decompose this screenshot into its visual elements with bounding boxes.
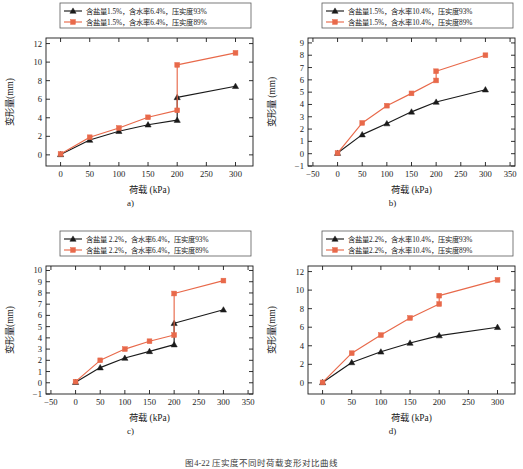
svg-text:0: 0 (320, 397, 324, 407)
chart-a-canvas: 050100150200250300024681012荷载 (kPa)变形量(m… (0, 0, 261, 215)
svg-text:荷载 (kPa): 荷载 (kPa) (391, 184, 432, 196)
svg-text:含盐量1.5%，含水率10.4%，压实度93%: 含盐量1.5%，含水率10.4%，压实度93% (348, 7, 472, 16)
chart-panel-b: −50050100150200250300350−10123456789荷载 (… (262, 0, 523, 228)
chart-b-canvas: −50050100150200250300350−10123456789荷载 (… (262, 0, 523, 215)
figure-sheet: 050100150200250300024681012荷载 (kPa)变形量(m… (0, 0, 523, 469)
svg-text:100: 100 (374, 397, 387, 407)
svg-text:150: 150 (143, 397, 156, 407)
svg-text:2: 2 (38, 131, 42, 141)
svg-text:−1: −1 (33, 389, 42, 399)
svg-text:6: 6 (300, 322, 305, 332)
svg-text:10: 10 (33, 57, 42, 67)
svg-text:100: 100 (112, 169, 125, 179)
svg-text:6: 6 (38, 94, 43, 104)
svg-text:300: 300 (229, 169, 242, 179)
svg-text:4: 4 (300, 99, 305, 109)
svg-text:0: 0 (300, 149, 304, 159)
chart-panel-c: −50050100150200250300350−1012345678910荷载… (0, 228, 261, 456)
figure-caption: 图4-22 压实度不同时荷载变形对比曲线 (0, 456, 523, 468)
panel-label-c: c) (0, 426, 261, 436)
svg-text:50: 50 (358, 169, 367, 179)
svg-text:变形量(mm): 变形量(mm) (4, 306, 16, 354)
svg-text:300: 300 (479, 169, 492, 179)
svg-text:150: 150 (405, 169, 418, 179)
svg-text:2: 2 (300, 124, 304, 134)
svg-text:0: 0 (58, 169, 62, 179)
chart-c-canvas: −50050100150200250300350−1012345678910荷载… (0, 228, 261, 443)
panel-label-b: b) (262, 198, 523, 208)
svg-text:0: 0 (73, 397, 77, 407)
svg-text:荷载 (kPa): 荷载 (kPa) (129, 412, 170, 424)
svg-text:50: 50 (347, 397, 356, 407)
svg-text:150: 150 (142, 169, 155, 179)
svg-text:1: 1 (38, 367, 42, 377)
panel-label-d: d) (262, 426, 523, 436)
svg-text:5: 5 (38, 322, 42, 332)
svg-text:3: 3 (38, 344, 42, 354)
svg-text:含盐量 2.2%，含水率6.4%，压实度93%: 含盐量 2.2%，含水率6.4%，压实度93% (86, 235, 209, 244)
svg-text:4: 4 (300, 341, 305, 351)
svg-text:含盐量1.5%，含水率6.4%，压实度93%: 含盐量1.5%，含水率6.4%，压实度93% (86, 7, 207, 16)
svg-text:6: 6 (300, 75, 305, 85)
svg-text:250: 250 (200, 169, 213, 179)
svg-text:荷载 (kPa): 荷载 (kPa) (391, 412, 432, 424)
svg-text:荷载 (kPa): 荷载 (kPa) (129, 184, 170, 196)
svg-text:50: 50 (85, 169, 94, 179)
svg-text:含盐量2.2%，含水率10.4%，压实度93%: 含盐量2.2%，含水率10.4%，压实度93% (348, 235, 472, 244)
svg-text:−1: −1 (295, 161, 304, 171)
svg-text:变形量(mm): 变形量(mm) (266, 306, 278, 354)
svg-text:8: 8 (300, 50, 304, 60)
svg-text:0: 0 (335, 169, 339, 179)
svg-text:9: 9 (300, 38, 304, 48)
svg-text:7: 7 (38, 299, 43, 309)
svg-text:5: 5 (300, 87, 304, 97)
svg-text:250: 250 (192, 397, 205, 407)
svg-text:变形量 (mm): 变形量 (mm) (266, 77, 278, 127)
svg-text:200: 200 (433, 397, 446, 407)
svg-text:350: 350 (504, 169, 517, 179)
chart-d-canvas: 050100150200250300024681012荷载 (kPa)变形量(m… (262, 228, 523, 443)
svg-text:8: 8 (38, 288, 42, 298)
svg-text:250: 250 (454, 169, 467, 179)
svg-text:含盐量1.5%，含水率10.4%，压实度89%: 含盐量1.5%，含水率10.4%，压实度89% (348, 18, 472, 27)
svg-text:300: 300 (217, 397, 230, 407)
svg-text:8: 8 (38, 76, 42, 86)
svg-text:300: 300 (491, 397, 504, 407)
svg-text:200: 200 (168, 397, 181, 407)
chart-panel-d: 050100150200250300024681012荷载 (kPa)变形量(m… (262, 228, 523, 456)
svg-text:100: 100 (118, 397, 131, 407)
svg-text:0: 0 (38, 150, 42, 160)
svg-text:150: 150 (404, 397, 417, 407)
svg-text:变形量(mm): 变形量(mm) (4, 78, 16, 126)
svg-text:10: 10 (33, 265, 42, 275)
svg-text:8: 8 (300, 304, 304, 314)
chart-panel-a: 050100150200250300024681012荷载 (kPa)变形量(m… (0, 0, 261, 228)
svg-text:9: 9 (38, 277, 42, 287)
svg-text:12: 12 (33, 39, 42, 49)
svg-text:−50: −50 (44, 397, 57, 407)
svg-text:350: 350 (242, 397, 255, 407)
svg-text:−50: −50 (306, 169, 319, 179)
svg-text:1: 1 (300, 136, 304, 146)
svg-text:250: 250 (462, 397, 475, 407)
svg-text:200: 200 (171, 169, 184, 179)
svg-text:3: 3 (300, 112, 304, 122)
svg-text:2: 2 (38, 355, 42, 365)
svg-text:0: 0 (300, 378, 304, 388)
svg-text:含盐量2.2%，含水率10.4%，压实度89%: 含盐量2.2%，含水率10.4%，压实度89% (348, 246, 472, 255)
svg-text:4: 4 (38, 333, 43, 343)
svg-text:12: 12 (295, 267, 304, 277)
svg-text:100: 100 (380, 169, 393, 179)
svg-text:0: 0 (38, 378, 42, 388)
panel-label-a: a) (0, 198, 261, 208)
svg-text:7: 7 (300, 63, 305, 73)
svg-text:4: 4 (38, 113, 43, 123)
svg-text:50: 50 (96, 397, 105, 407)
svg-text:2: 2 (300, 359, 304, 369)
svg-text:含盐量 2.2%，含水率6.4%，压实度89%: 含盐量 2.2%，含水率6.4%，压实度89% (86, 246, 209, 255)
svg-text:6: 6 (38, 310, 43, 320)
svg-text:含盐量1.5%，含水率6.4%，压实度89%: 含盐量1.5%，含水率6.4%，压实度89% (86, 18, 207, 27)
svg-text:200: 200 (430, 169, 443, 179)
svg-text:10: 10 (295, 285, 304, 295)
